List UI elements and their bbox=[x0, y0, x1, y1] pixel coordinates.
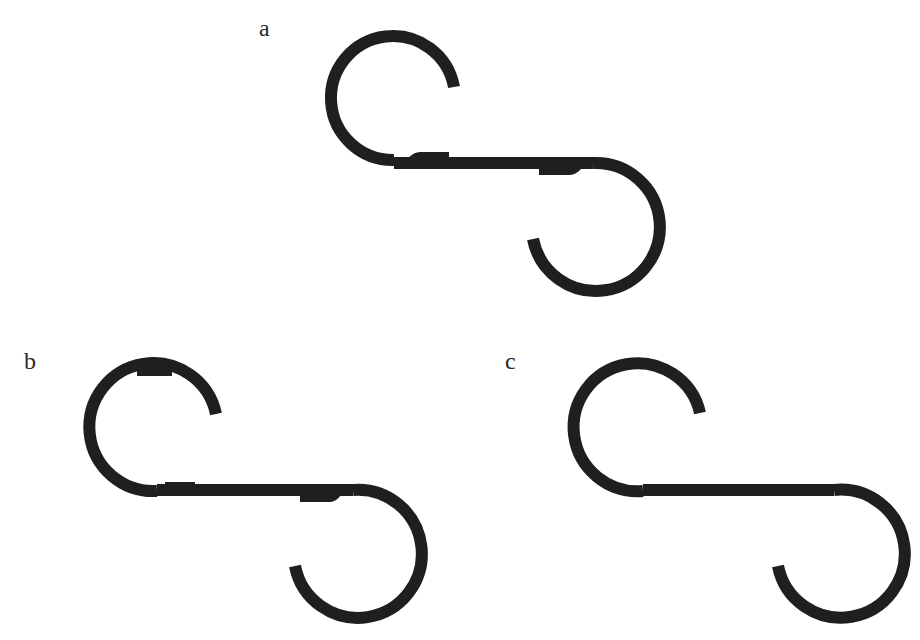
s-hook-figure bbox=[0, 0, 920, 640]
lower-arc-a bbox=[533, 163, 660, 291]
upper-arc-c bbox=[574, 363, 700, 491]
s-hook-a bbox=[331, 36, 660, 291]
figure-caption bbox=[360, 632, 680, 640]
lower-arc-c bbox=[778, 490, 905, 618]
upper-arc-a bbox=[331, 36, 454, 160]
joint-tab-a-left bbox=[408, 152, 449, 158]
upper-arc-b bbox=[89, 363, 216, 491]
joint-tab-b-left bbox=[165, 482, 195, 485]
joint-tab-b-top bbox=[137, 365, 172, 376]
joint-tab-a-right bbox=[539, 168, 582, 175]
s-hook-b bbox=[89, 363, 421, 618]
s-hook-c bbox=[574, 363, 905, 617]
joint-tab-b-right bbox=[300, 495, 341, 502]
lower-arc-b bbox=[295, 490, 422, 618]
